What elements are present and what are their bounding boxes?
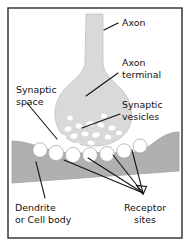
dendrite-or-cell-body-label-line-1: Dendrite xyxy=(15,202,56,213)
receptor-site-4 xyxy=(83,148,98,163)
dendrite-or-cell-body-label-line-2: or Cell body xyxy=(15,214,72,225)
synapse-diagram: AxonAxonterminalSynapticvesiclesSynaptic… xyxy=(0,0,191,248)
synaptic-vesicles-label-line-1: Synaptic xyxy=(122,99,163,110)
synaptic-space-label-line-2: space xyxy=(16,96,44,107)
synaptic-space-label-line-1: Synaptic xyxy=(16,84,57,95)
synaptic-vesicles-label-line-2: vesicles xyxy=(122,111,159,122)
axon-label: Axon xyxy=(122,17,145,28)
axon-label-line-1: Axon xyxy=(122,17,145,28)
axon-terminal-label-line-2: terminal xyxy=(122,69,161,80)
synaptic-vesicles-label: Synapticvesicles xyxy=(122,99,163,122)
receptor-sites-label-line-2: sites xyxy=(134,214,156,225)
receptor-site-6 xyxy=(117,144,131,158)
receptor-site-2 xyxy=(48,145,63,160)
receptor-site-3 xyxy=(65,147,80,162)
receptor-site-1 xyxy=(33,143,47,157)
receptor-site-5 xyxy=(100,147,115,162)
synapse-diagram-canvas: AxonAxonterminalSynapticvesiclesSynaptic… xyxy=(0,0,191,248)
axon-terminal-label-line-1: Axon xyxy=(122,57,145,68)
receptor-site-7 xyxy=(133,139,147,153)
receptor-sites-label-line-1: Receptor xyxy=(124,202,166,213)
